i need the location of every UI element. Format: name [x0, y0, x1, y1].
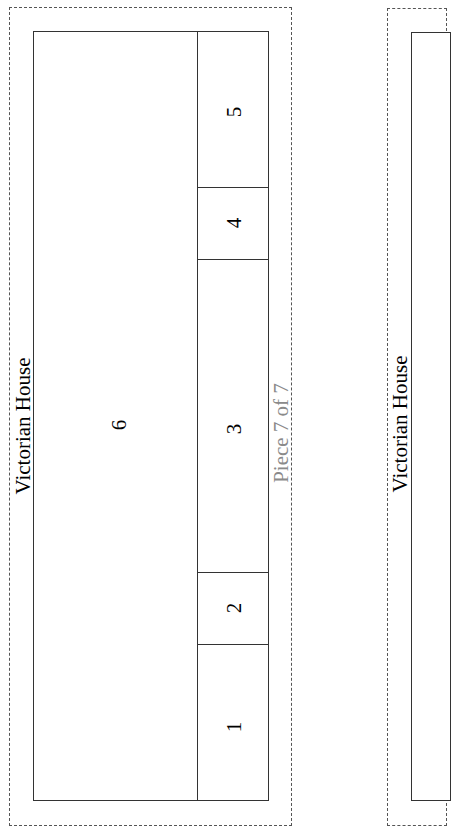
room-label-4: 4 — [224, 218, 245, 229]
divider-vertical — [197, 31, 198, 801]
floor-plan-outline — [33, 31, 269, 801]
divider-4-3 — [197, 259, 269, 260]
room-label-6: 6 — [109, 420, 130, 431]
floor-plan-outline-2 — [411, 32, 451, 801]
plan-title: Victorian House — [13, 358, 34, 495]
room-label-2: 2 — [224, 603, 245, 614]
divider-2-1 — [197, 644, 269, 645]
room-label-1: 1 — [224, 722, 245, 733]
room-label-5: 5 — [224, 107, 245, 118]
plan-title-2: Victorian House — [390, 356, 411, 493]
room-label-3: 3 — [224, 424, 245, 435]
divider-5-4 — [197, 187, 269, 188]
piece-indicator: Piece 7 of 7 — [271, 383, 292, 483]
divider-3-2 — [197, 572, 269, 573]
